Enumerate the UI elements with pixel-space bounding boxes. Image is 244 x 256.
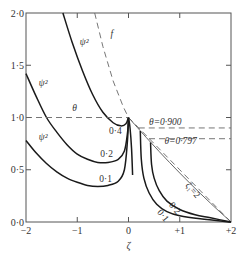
chart: −2−10+1+20·00·51·01·52·0ζ fψ²ψ²θψ²0·40·2… [0,0,244,256]
curve-label: θ=0·797 [164,136,198,146]
x-axis-label: ζ [126,240,131,252]
curve-label: 0·4 [109,126,122,136]
curve-label: θ=0·900 [149,117,182,127]
annotations: fψ²ψ²θψ²0·40·20·1θ=0·900θ=0·797ζ₁=20·20·… [39,29,203,224]
curve-label: 0·2 [100,149,113,159]
axes: −2−10+1+20·00·51·01·52·0ζ [11,8,237,253]
curve-label: ψ² [80,37,89,47]
x-tick-label: +2 [226,225,237,236]
y-tick-label: 1·5 [11,60,24,71]
curve-label: θ [72,103,77,113]
series-line [129,118,133,175]
chart-plot-area: −2−10+1+20·00·51·01·52·0ζ fψ²ψ²θψ²0·40·2… [0,0,244,256]
y-tick-label: 1·0 [11,112,24,123]
curve-label-rotated: ζ₁=2 [183,180,203,201]
curve-label: ψ² [39,78,48,88]
curve-label-rotated: 0·1 [155,207,171,223]
y-tick-label: 0·5 [11,164,24,175]
curve-label: ψ² [39,132,48,142]
y-tick-label: 0·0 [11,217,24,228]
x-tick-label: 0 [126,225,131,236]
curve-label: 0·1 [99,174,112,184]
x-tick-label: −1 [72,225,83,236]
x-tick-label: +1 [174,225,185,236]
y-tick-label: 2·0 [11,8,24,19]
curve-label: f [111,29,115,39]
